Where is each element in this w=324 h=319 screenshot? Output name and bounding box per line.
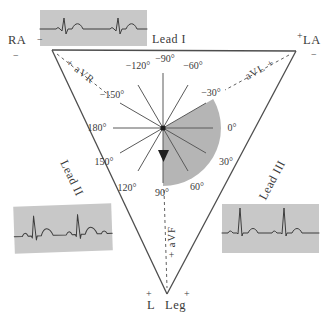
- ra-label: RA: [8, 34, 26, 47]
- axis-line-m120: [138, 85, 163, 128]
- angle-label-0: 0°: [228, 123, 237, 133]
- angle-label-120: 120°: [118, 183, 137, 193]
- axis-center-dot: [160, 125, 165, 130]
- triangle-side-lead1: [52, 50, 296, 51]
- ll-leg-label: Leg: [165, 299, 186, 312]
- avf-label: + aVF: [167, 226, 178, 258]
- ra-minus-sign-lead1: −: [37, 35, 43, 45]
- angle-label-m150: −150°: [100, 90, 125, 100]
- angle-label-60: 60°: [190, 182, 204, 192]
- angle-label-m90: −90°: [155, 54, 175, 64]
- la-label: LA: [303, 34, 321, 47]
- angle-label-150: 150°: [95, 157, 114, 167]
- lead1-label: Lead I: [152, 33, 186, 45]
- ecg-strip-lead2: [13, 203, 113, 253]
- angle-label-90: 90°: [155, 188, 169, 198]
- axis-line-120: [138, 128, 163, 171]
- la-minus-sign-lead3: −: [311, 50, 317, 60]
- ecg-strip-lead1: [40, 10, 147, 46]
- angle-label-m60: −60°: [183, 61, 203, 71]
- angle-label-180: 180°: [88, 123, 107, 133]
- angle-label-30: 30°: [219, 157, 233, 167]
- einthoven-triangle-figure: Lead I Lead II Lead III + aVR aVL + + aV…: [0, 0, 324, 319]
- la-plus-sign-lead1: +: [297, 31, 303, 41]
- ecg-strip-lead3: [222, 204, 319, 253]
- angle-label-m120: −120°: [126, 61, 151, 71]
- ra-minus-sign-lead2: −: [13, 51, 19, 61]
- ll-l-label: L: [147, 299, 155, 312]
- axis-line-m150: [120, 103, 163, 128]
- angle-label-m30: −30°: [201, 88, 221, 98]
- axis-line-150: [120, 128, 163, 153]
